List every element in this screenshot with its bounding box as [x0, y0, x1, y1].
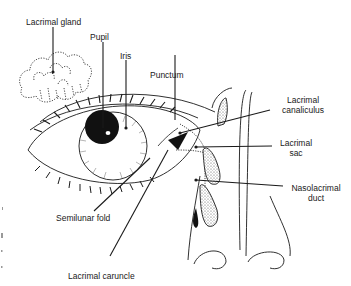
- label-iris: Iris: [120, 51, 131, 61]
- label-lacrimal-canaliculus: Lacrimal canaliculus: [270, 95, 336, 115]
- lacrimal-gland-shape: [20, 52, 92, 102]
- label-nasolacrimal-duct: Nasolacrimal duct: [283, 183, 349, 203]
- label-lacrimal-gland: Lacrimal gland: [26, 17, 81, 27]
- label-semilunar-fold: Semilunar fold: [56, 213, 110, 223]
- pupil-shape: [85, 110, 119, 144]
- label-lacrimal-caruncle: Lacrimal caruncle: [68, 271, 135, 281]
- label-punctum: Punctum: [150, 70, 184, 80]
- label-lacrimal-sac: Lacrimal sac: [270, 138, 322, 158]
- pupil-highlight: [106, 131, 111, 135]
- lacrimal-sac-shape: [200, 98, 227, 226]
- margin-marks: [1, 207, 3, 268]
- nose-outline: [188, 88, 290, 269]
- label-pupil: Pupil: [90, 32, 109, 42]
- lacrimal-caruncle-shape: [168, 132, 188, 150]
